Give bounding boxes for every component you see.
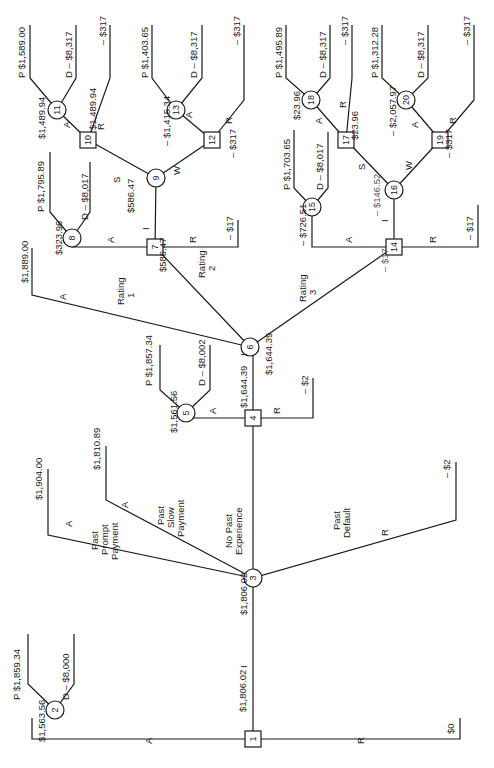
label-n19-payoff-R: – $317 xyxy=(461,16,472,45)
edge-n1-reject xyxy=(253,718,460,739)
edge-n15-pay xyxy=(294,130,312,207)
label-n20-D: D – $8,317 xyxy=(415,32,426,78)
label-n3-value: $1,806.02 xyxy=(238,573,249,615)
node-number: 2 xyxy=(50,707,60,712)
chance-node-18: 18 xyxy=(302,91,320,109)
label-n18-P: P $1,495.89 xyxy=(273,27,284,78)
edge-n1-accept xyxy=(32,718,253,739)
chance-node-2: 2 xyxy=(46,701,64,719)
label-n8-value: $323.96 xyxy=(53,221,64,255)
label-rating2-label: Rating xyxy=(196,251,207,278)
label-n1-payoff-R: $0 xyxy=(445,723,456,734)
label-rating1-label2: 1 xyxy=(125,293,136,298)
label-n16-W: W xyxy=(403,161,414,170)
label-n20-value: – $2,057.97 xyxy=(387,86,398,136)
label-n14-I: I xyxy=(379,219,390,222)
label-n1-R: R xyxy=(355,737,366,744)
edge-n18-pay xyxy=(286,25,311,100)
decision-node-4: 4 xyxy=(245,410,261,426)
label-n20-P: P $1,312.28 xyxy=(369,27,380,78)
label-n8-D: D – $8,017 xyxy=(79,174,90,220)
label-n12-payoff-R: – $317 xyxy=(231,16,242,45)
edge-n9-strong xyxy=(88,140,156,178)
label-n7-payoff-R: – $17 xyxy=(224,216,235,240)
label-n1-value: $1,806.02 xyxy=(237,670,248,712)
chance-node-16: 16 xyxy=(385,181,403,199)
node-number: 10 xyxy=(83,135,93,145)
label-n7-I: I xyxy=(140,227,151,230)
label-n2-value: $1,563.56 xyxy=(36,700,47,742)
label-n8-P: P $1,795.89 xyxy=(35,161,46,212)
label-n12-R: R xyxy=(223,117,234,124)
label-n11-D: D – $8,317 xyxy=(63,32,74,78)
label-n17-A: A xyxy=(313,117,324,124)
label-n16-value: – $146.52 xyxy=(371,174,382,216)
label-n4-R: R xyxy=(271,407,282,414)
label-prompt-branch3: Payment xyxy=(109,522,120,560)
label-rating1-A: A xyxy=(57,293,68,300)
decision-node-10: 10 xyxy=(80,132,96,148)
label-prompt-A: A xyxy=(63,520,74,527)
chance-node-5: 5 xyxy=(177,404,195,422)
label-n1-A: A xyxy=(143,737,154,744)
label-slow-A: A xyxy=(119,501,130,508)
node-number: 11 xyxy=(52,105,62,114)
node-number: 1 xyxy=(248,736,258,741)
node-number: 15 xyxy=(307,202,317,212)
label-n15-P: P $1,703.65 xyxy=(281,139,292,190)
label-slow-branch3: Payment xyxy=(175,499,186,537)
label-n4-payoff-R: – $2 xyxy=(299,376,310,395)
label-n9-value: $586.47 xyxy=(125,179,136,213)
label-n13-P: P $1,403.65 xyxy=(139,27,150,78)
node-number: 18 xyxy=(306,95,316,105)
label-n13-D: D – $8,317 xyxy=(188,32,199,78)
label-n7-value: $586.47 xyxy=(157,238,168,272)
chance-node-9: 9 xyxy=(147,169,165,187)
node-number: 12 xyxy=(207,135,217,145)
label-n5-P: P $1,857.34 xyxy=(143,335,154,386)
label-n19-value: – $317 xyxy=(443,129,454,158)
label-slow-payoff: $1,810.89 xyxy=(91,428,102,470)
label-n19-R: R xyxy=(447,117,458,124)
chance-node-6: 6 xyxy=(241,338,259,356)
node-number: 9 xyxy=(151,175,161,180)
label-n4-value: $1,644.39 xyxy=(238,366,249,408)
label-rating2-label2: 2 xyxy=(206,266,217,271)
label-rating3-label2: 3 xyxy=(307,290,318,295)
label-prompt-payoff: $1,904.00 xyxy=(33,458,44,500)
label-n7-A: A xyxy=(105,236,116,243)
tree-labels: $1,806.02I$1,806.02AR$0$1,563.56P $1,859… xyxy=(11,16,475,744)
label-default-R: R xyxy=(379,529,390,536)
edge-n2-pay xyxy=(28,634,55,710)
node-number: 4 xyxy=(248,415,258,420)
node-number: 5 xyxy=(181,410,191,415)
node-number: 14 xyxy=(389,242,399,252)
label-n18-value: $23.96 xyxy=(291,91,302,120)
label-n10-R: R xyxy=(95,123,106,130)
tree-nodes: 1234567891011121314151617181920 xyxy=(46,91,448,747)
label-n14-payoff-R: – $17 xyxy=(464,216,475,240)
decision-tree-diagram: 1234567891011121314151617181920 $1,806.0… xyxy=(0,0,494,768)
label-n4-I: I xyxy=(238,353,249,356)
label-default-payoff: – $2 xyxy=(441,460,452,479)
label-n2-D: D – $8,000 xyxy=(60,654,71,700)
label-n2-P: P $1,859.34 xyxy=(11,649,22,700)
label-n6-value: $1,644.39 xyxy=(263,333,274,375)
label-n14-A: A xyxy=(343,236,354,243)
label-n17-R: R xyxy=(337,101,348,108)
label-n15-D: D – $8,017 xyxy=(314,144,325,190)
node-number: 20 xyxy=(401,95,411,105)
chance-node-20: 20 xyxy=(397,91,415,109)
decision-node-12: 12 xyxy=(204,132,220,148)
label-noexp-branch2: Experience xyxy=(233,507,244,555)
label-n1-I: I xyxy=(238,665,249,668)
node-number: 3 xyxy=(248,575,258,580)
edge-n7-investigate xyxy=(155,178,156,247)
node-number: 6 xyxy=(245,344,255,349)
label-n19-A: A xyxy=(409,121,420,128)
edge-n3-default xyxy=(253,462,456,578)
node-number: 8 xyxy=(67,235,77,240)
label-n12-value: – $317 xyxy=(227,129,238,158)
label-n15-value: – $726.51 xyxy=(297,204,308,246)
label-n13-value: – $1,415.34 xyxy=(161,96,172,146)
